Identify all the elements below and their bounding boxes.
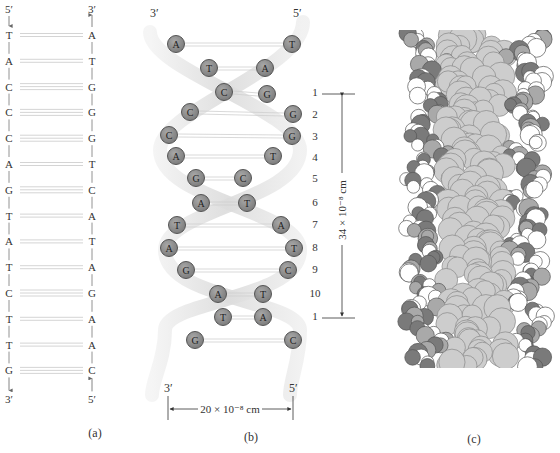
- turn-number: 2: [312, 108, 318, 120]
- svg-text:T: T: [270, 151, 276, 162]
- nucleotide-C: C: [216, 84, 233, 101]
- nucleotide-C: C: [280, 262, 297, 279]
- nucleotide-T: T: [239, 195, 256, 212]
- right-base: T: [89, 235, 96, 247]
- nucleotide-T: T: [286, 240, 303, 257]
- svg-text:T: T: [291, 243, 297, 254]
- turn-number: 1: [312, 310, 318, 322]
- base-pair: GC: [188, 170, 252, 187]
- panel-a-caption: (a): [88, 426, 101, 440]
- helix-top-left-end-label: 3′: [150, 6, 159, 20]
- svg-text:T: T: [206, 63, 212, 74]
- svg-text:T: T: [174, 220, 180, 231]
- base-pair: TA: [201, 60, 274, 77]
- panel-b-double-helix: ATTACGCGCGATGCATTAATGCATTAGC: [150, 22, 303, 395]
- nucleotide-C: C: [235, 170, 252, 187]
- svg-text:C: C: [221, 87, 228, 98]
- svg-text:A: A: [259, 312, 267, 323]
- helix-top-right-end-label: 5′: [293, 6, 302, 20]
- svg-text:G: G: [289, 109, 296, 120]
- nucleotide-T: T: [284, 36, 301, 53]
- svg-text:C: C: [166, 130, 173, 141]
- turn-number: 7: [312, 218, 318, 230]
- svg-text:A: A: [261, 63, 269, 74]
- right-base: C: [88, 184, 95, 196]
- panel-c-space-filling-model: [398, 22, 555, 377]
- left-base: G: [5, 184, 13, 196]
- svg-text:A: A: [172, 39, 180, 50]
- nucleotide-C: C: [161, 127, 178, 144]
- left-base: C: [5, 132, 12, 144]
- strand-left-5prime-label: 5′: [5, 3, 13, 15]
- base-pair: GC: [187, 332, 302, 349]
- turn-number: 5: [312, 172, 318, 184]
- svg-text:A: A: [277, 220, 285, 231]
- left-base: C: [5, 287, 12, 299]
- left-base: T: [6, 210, 13, 222]
- right-base: T: [89, 55, 96, 67]
- svg-text:A: A: [214, 289, 222, 300]
- turn-number: 9: [312, 263, 318, 275]
- left-base: G: [5, 364, 13, 376]
- nucleotide-A: A: [210, 286, 227, 303]
- svg-text:T: T: [244, 198, 250, 209]
- nucleotide-T: T: [255, 286, 272, 303]
- left-base: C: [5, 106, 12, 118]
- dna-figure: 5′3′TAATCGCGCGATGCTAATTACGTATAGC3′5′ (a)…: [0, 0, 560, 453]
- right-base: G: [88, 287, 96, 299]
- turn-number: 8: [312, 241, 318, 253]
- nucleotide-G: G: [178, 262, 195, 279]
- helix-bottom-right-end-label: 5′: [289, 381, 298, 395]
- svg-text:G: G: [192, 173, 199, 184]
- right-base: C: [88, 364, 95, 376]
- nucleotide-T: T: [169, 217, 186, 234]
- svg-text:A: A: [197, 198, 205, 209]
- base-pair: AT: [161, 240, 303, 257]
- right-base: T: [89, 158, 96, 170]
- nucleotide-G: G: [259, 86, 276, 103]
- nucleotide-A: A: [161, 240, 178, 257]
- turn-number: 4: [312, 151, 318, 163]
- nucleotide-A: A: [168, 36, 185, 53]
- left-base: T: [6, 261, 13, 273]
- base-pair: AT: [168, 148, 282, 165]
- right-base: G: [88, 81, 96, 93]
- svg-text:A: A: [165, 243, 173, 254]
- svg-text:G: G: [191, 335, 198, 346]
- svg-text:G: G: [182, 265, 189, 276]
- panel-c-caption: (c): [467, 432, 480, 446]
- right-base: G: [88, 106, 96, 118]
- svg-text:G: G: [288, 131, 295, 142]
- turn-number: 6: [312, 196, 318, 208]
- left-base: C: [5, 81, 12, 93]
- nucleotide-A: A: [257, 60, 274, 77]
- right-base: A: [88, 261, 96, 273]
- turn-number: 10: [310, 287, 322, 299]
- turn-number: 1: [312, 86, 318, 98]
- right-base: A: [88, 313, 96, 325]
- nucleotide-G: G: [285, 106, 302, 123]
- svg-text:T: T: [260, 289, 266, 300]
- svg-text:C: C: [285, 265, 292, 276]
- nucleotide-G: G: [284, 128, 301, 145]
- nucleotide-T: T: [215, 309, 232, 326]
- right-base: A: [88, 29, 96, 41]
- svg-text:C: C: [240, 173, 247, 184]
- nucleotide-G: G: [188, 170, 205, 187]
- svg-text:C: C: [290, 335, 297, 346]
- width-dimension: 20 × 10⁻⁸ cm: [168, 396, 293, 420]
- panel-b-caption: (b): [244, 430, 258, 444]
- left-base: A: [5, 158, 13, 170]
- panel-a-base-pair-ladder: 5′3′TAATCGCGCGATGCTAATTACGTATAGC3′5′: [5, 3, 96, 405]
- strand-right-3prime-label: 3′: [88, 3, 96, 15]
- base-pair: TA: [215, 309, 272, 326]
- strand-left-3prime-label: 3′: [5, 393, 13, 405]
- helix-turn-numbers: 123456789101: [310, 86, 322, 322]
- right-base: G: [88, 132, 96, 144]
- strand-right-5prime-label: 5′: [88, 393, 96, 405]
- pitch-label: 34 × 10⁻⁸ cm: [336, 180, 348, 240]
- pitch-dimension: 34 × 10⁻⁸ cm: [322, 94, 355, 318]
- left-base: T: [6, 29, 13, 41]
- svg-text:C: C: [187, 107, 194, 118]
- left-base: T: [6, 339, 13, 351]
